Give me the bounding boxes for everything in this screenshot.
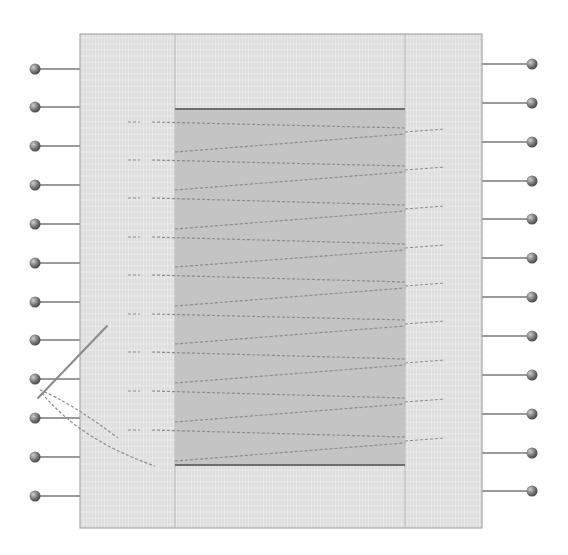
- pin-icon: [482, 176, 538, 187]
- pin-icon: [30, 452, 81, 463]
- pin-icon: [30, 335, 81, 346]
- pin-icon: [30, 219, 81, 230]
- pin-icon: [482, 59, 538, 70]
- pin-icon: [482, 409, 538, 420]
- pin-icon: [482, 137, 538, 148]
- pin-icon: [30, 64, 81, 75]
- pin-icon: [482, 98, 538, 109]
- pin-icon: [482, 370, 538, 381]
- right-pin-row: [482, 59, 538, 497]
- pin-icon: [482, 292, 538, 303]
- pin-icon: [482, 331, 538, 342]
- pin-icon: [30, 180, 81, 191]
- pin-icon: [30, 297, 81, 308]
- pin-icon: [482, 486, 538, 497]
- stitching-diagram: [0, 0, 568, 555]
- pin-icon: [30, 102, 81, 113]
- pin-icon: [30, 141, 81, 152]
- pin-icon: [482, 253, 538, 264]
- pin-icon: [30, 258, 81, 269]
- pin-icon: [30, 413, 81, 424]
- left-pin-row: [30, 64, 81, 502]
- pin-icon: [482, 448, 538, 459]
- pin-icon: [482, 214, 538, 225]
- pin-icon: [30, 374, 81, 385]
- sewn-panel: [175, 109, 405, 465]
- pin-icon: [30, 491, 81, 502]
